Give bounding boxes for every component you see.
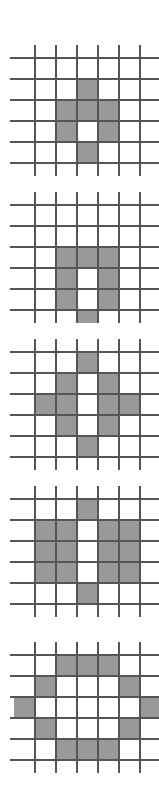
lattice-cell xyxy=(98,289,119,310)
lattice-cell xyxy=(119,541,140,562)
lattice-cell xyxy=(119,718,140,739)
lattice-cell xyxy=(98,373,119,394)
lattice-cell xyxy=(98,394,119,415)
lattice-cell xyxy=(119,562,140,583)
lattice-cell xyxy=(56,394,77,415)
panel-3-filled-cells xyxy=(35,352,140,457)
lattice-cell xyxy=(98,268,119,289)
panel-3 xyxy=(0,339,159,470)
lattice-cell xyxy=(77,247,98,268)
panel-5-lattice xyxy=(0,642,159,773)
lattice-cell xyxy=(119,676,140,697)
lattice-cell xyxy=(77,142,98,163)
lattice-cell xyxy=(77,583,98,604)
lattice-cell xyxy=(35,676,56,697)
panel-4 xyxy=(0,486,159,617)
lattice-cell xyxy=(56,655,77,676)
lattice-cell xyxy=(35,562,56,583)
lattice-cell xyxy=(35,394,56,415)
lattice-cell xyxy=(98,562,119,583)
lattice-cell xyxy=(56,100,77,121)
lattice-cell xyxy=(140,697,159,718)
panel-2 xyxy=(0,192,159,323)
panel-4-lattice xyxy=(0,486,159,617)
lattice-cell xyxy=(77,499,98,520)
panel-2-filled-cells xyxy=(56,247,119,323)
lattice-cell xyxy=(14,697,35,718)
figure-stack xyxy=(0,0,159,801)
panel-1 xyxy=(0,45,159,176)
panel-5 xyxy=(0,642,159,773)
lattice-cell xyxy=(35,718,56,739)
panel-3-lattice xyxy=(0,339,159,470)
lattice-cell xyxy=(98,520,119,541)
lattice-cell xyxy=(56,520,77,541)
lattice-cell xyxy=(98,655,119,676)
lattice-cell xyxy=(56,373,77,394)
panel-1-lattice xyxy=(0,45,159,176)
lattice-cell xyxy=(98,100,119,121)
lattice-cell xyxy=(77,310,98,323)
lattice-cell xyxy=(77,100,98,121)
lattice-cell xyxy=(56,121,77,142)
lattice-cell xyxy=(119,394,140,415)
lattice-cell xyxy=(56,268,77,289)
lattice-cell xyxy=(77,79,98,100)
lattice-cell xyxy=(77,739,98,760)
lattice-cell xyxy=(98,415,119,436)
lattice-cell xyxy=(56,289,77,310)
lattice-cell xyxy=(77,436,98,457)
lattice-cell xyxy=(77,655,98,676)
panel-2-lattice xyxy=(0,192,159,323)
lattice-cell xyxy=(98,541,119,562)
lattice-cell xyxy=(56,247,77,268)
lattice-cell xyxy=(35,520,56,541)
lattice-cell xyxy=(56,739,77,760)
lattice-cell xyxy=(56,415,77,436)
lattice-cell xyxy=(98,121,119,142)
lattice-cell xyxy=(77,352,98,373)
lattice-cell xyxy=(56,541,77,562)
panel-4-filled-cells xyxy=(35,499,140,604)
lattice-cell xyxy=(35,541,56,562)
lattice-cell xyxy=(98,247,119,268)
lattice-cell xyxy=(98,739,119,760)
lattice-cell xyxy=(119,520,140,541)
lattice-cell xyxy=(56,562,77,583)
